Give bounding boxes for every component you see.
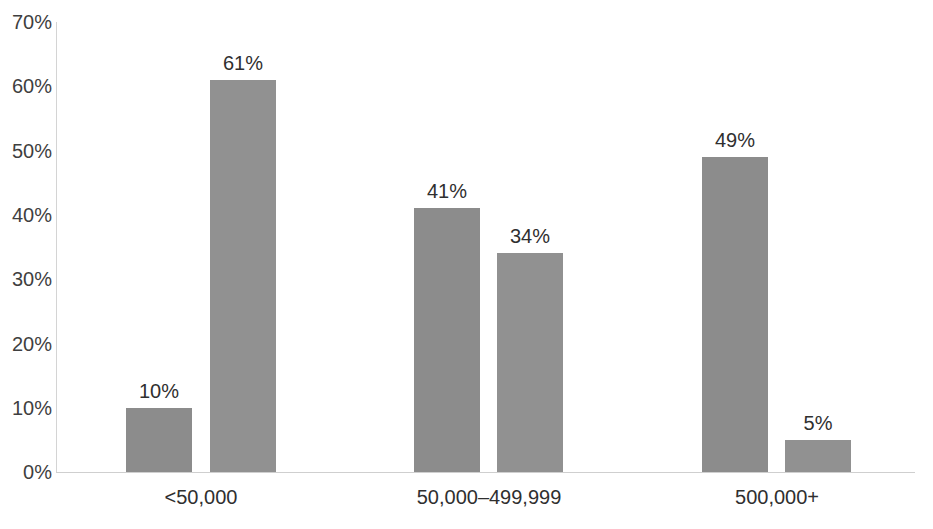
bar-value-label-cat0-series0: 10%: [139, 381, 179, 401]
bar-cat2-series0[interactable]: [702, 157, 768, 472]
bar-value-label-cat2-series0: 49%: [715, 130, 755, 150]
plot-area: 10% 61% 41% 34% 49% 5%: [0, 0, 933, 529]
bar-value-label-cat1-series0: 41%: [427, 181, 467, 201]
category-label-0: <50,000: [165, 487, 238, 507]
bar-value-label-cat2-series1: 5%: [804, 413, 833, 433]
bar-value-label-cat0-series1: 61%: [223, 53, 263, 73]
bar-cat0-series0[interactable]: [126, 408, 192, 472]
category-label-1: 50,000–499,999: [417, 487, 562, 507]
bar-chart: 70% 60% 50% 40% 30% 20% 10% 0% 10% 61% 4…: [0, 0, 933, 529]
category-label-2: 500,000+: [735, 487, 819, 507]
bar-cat1-series0[interactable]: [414, 208, 480, 472]
bar-cat1-series1[interactable]: [497, 253, 563, 472]
bar-cat0-series1[interactable]: [210, 80, 276, 472]
bar-value-label-cat1-series1: 34%: [510, 226, 550, 246]
bar-cat2-series1[interactable]: [785, 440, 851, 472]
